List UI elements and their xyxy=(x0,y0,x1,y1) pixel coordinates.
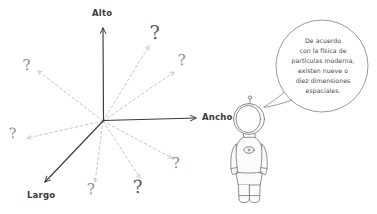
dashed-ray-up-right-2 xyxy=(103,72,174,121)
axis-label-ancho: Ancho xyxy=(202,112,233,122)
extra-dimension-rays xyxy=(27,46,174,182)
bubble-line-4: existen nueve o xyxy=(281,66,365,76)
dashed-ray-up-left xyxy=(38,71,103,121)
speech-bubble-tail-outline xyxy=(264,100,292,108)
diagram-svg xyxy=(0,0,377,214)
bubble-line-1: De acuerdo xyxy=(281,36,365,46)
question-mark-2: ? xyxy=(177,53,186,69)
astronaut-visor xyxy=(236,105,261,132)
question-mark-4: ? xyxy=(8,126,17,141)
axis-ancho-line xyxy=(103,118,196,121)
astronaut-torso xyxy=(235,138,263,186)
axis-label-alto: Alto xyxy=(92,8,112,18)
axis-largo-line xyxy=(45,121,103,182)
dashed-ray-left xyxy=(27,121,103,138)
question-mark-5: ? xyxy=(87,182,96,197)
dashed-ray-down-1 xyxy=(95,121,103,182)
axis-label-largo: Largo xyxy=(27,190,55,200)
dashed-ray-up-right-1 xyxy=(103,46,149,121)
astronaut-badge-center xyxy=(248,149,251,152)
astronaut-figure xyxy=(231,96,267,203)
dashed-ray-down-2 xyxy=(103,121,140,178)
bubble-line-2: con la física de xyxy=(281,46,365,56)
illustration-canvas: Alto Ancho Largo ? ? ? ? ? ? ? De acuerd… xyxy=(0,0,377,214)
question-mark-6: ? xyxy=(132,178,143,197)
bubble-line-3: partículas moderna, xyxy=(281,56,365,66)
astronaut-legs xyxy=(238,185,260,203)
astronaut-antenna-tip xyxy=(248,96,251,99)
dashed-ray-down-right xyxy=(103,121,172,158)
question-mark-1: ? xyxy=(149,23,161,43)
bubble-line-6: espaciales. xyxy=(281,86,365,96)
question-mark-7: ? xyxy=(171,156,180,172)
question-mark-3: ? xyxy=(22,58,32,74)
axis-alto-line xyxy=(103,28,104,121)
speech-bubble-text: De acuerdo con la física de partículas m… xyxy=(281,36,365,96)
bubble-line-5: diez dimensiones xyxy=(281,76,365,86)
